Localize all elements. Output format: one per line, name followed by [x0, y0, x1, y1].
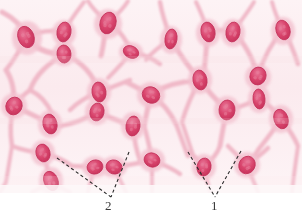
image-bottom-fade — [0, 185, 302, 193]
callout-label-2: 2 — [105, 199, 112, 212]
micrograph-image — [0, 0, 302, 193]
histology-figure: 2 1 — [0, 0, 302, 223]
callout-label-1: 1 — [211, 199, 218, 212]
